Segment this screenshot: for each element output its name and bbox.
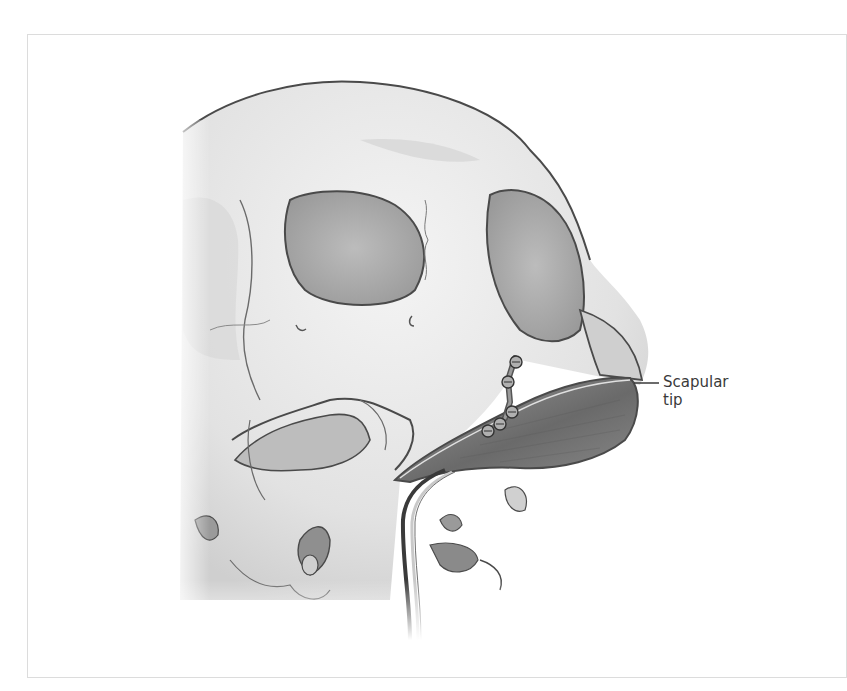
- screw-icon: [494, 418, 506, 430]
- scapular-tip-label: Scapular tip: [663, 373, 729, 409]
- label-line-1: Scapular: [663, 373, 729, 391]
- skull: [180, 81, 648, 600]
- screw-icon: [506, 406, 518, 418]
- screw-icon: [510, 356, 522, 368]
- screw-icon: [482, 425, 494, 437]
- screw-icon: [502, 376, 514, 388]
- label-line-2: tip: [663, 391, 729, 409]
